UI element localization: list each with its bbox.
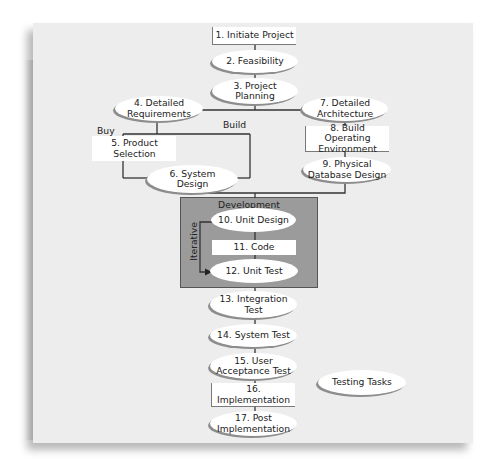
- build-label: Build: [223, 119, 246, 130]
- node-code: 11. Code: [212, 240, 296, 255]
- buy-label: Buy: [97, 125, 115, 136]
- legend-testing-tasks: Testing Tasks: [318, 370, 406, 395]
- node-detailed-requirements: 4. Detailed Requirements: [115, 96, 203, 121]
- node-implementation: 16. Implementation: [211, 383, 295, 407]
- node-initiate-project: 1. Initiate Project: [212, 27, 296, 45]
- node-physical-database-design: 9. Physical Database Design: [303, 157, 391, 182]
- node-project-planning: 3. Project Planning: [212, 78, 298, 104]
- node-system-test: 14. System Test: [210, 324, 297, 347]
- node-integration-test: 13. Integration Test: [210, 291, 297, 318]
- node-system-design: 6. System Design: [147, 165, 238, 193]
- node-product-selection: 5. Product Selection: [92, 136, 176, 161]
- node-detailed-architecture: 7. Detailed Architecture: [302, 96, 388, 121]
- node-post-implementation: 17. Post Implementation: [210, 411, 297, 436]
- node-user-acceptance-test: 15. User Acceptance Test: [210, 353, 297, 379]
- node-build-operating-environment: 8. Build Operating Environment: [305, 126, 389, 152]
- node-feasibility: 2. Feasibility: [212, 50, 298, 73]
- node-unit-design: 10. Unit Design: [211, 208, 296, 232]
- node-unit-test: 12. Unit Test: [210, 259, 298, 283]
- iterative-label: Iterative: [188, 219, 199, 265]
